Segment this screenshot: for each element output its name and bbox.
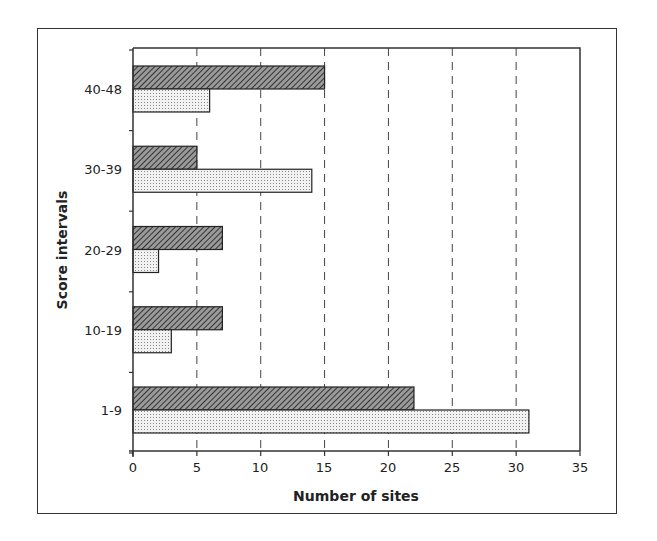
bar [133, 330, 171, 353]
x-tick-label: 30 [508, 460, 525, 475]
bar [133, 89, 210, 112]
bar [133, 227, 222, 250]
x-tick-label: 35 [572, 460, 589, 475]
category-label: 30-39 [62, 162, 122, 177]
x-tick-label: 10 [252, 460, 269, 475]
bar [133, 169, 312, 192]
bar [133, 387, 414, 410]
category-label: 1-9 [62, 403, 122, 418]
bars [133, 66, 529, 433]
bar [133, 250, 159, 273]
x-tick-label: 25 [444, 460, 461, 475]
x-tick-label: 15 [316, 460, 333, 475]
category-label: 40-48 [62, 82, 122, 97]
category-label: 10-19 [62, 323, 122, 338]
category-label: 20-29 [62, 243, 122, 258]
bar [133, 146, 197, 169]
bar [133, 410, 529, 433]
x-tick-label: 20 [380, 460, 397, 475]
x-tick-label: 5 [193, 460, 201, 475]
x-tick-label: 0 [129, 460, 137, 475]
x-axis-label: Number of sites [293, 488, 419, 504]
bar [133, 307, 222, 330]
bar [133, 66, 325, 89]
